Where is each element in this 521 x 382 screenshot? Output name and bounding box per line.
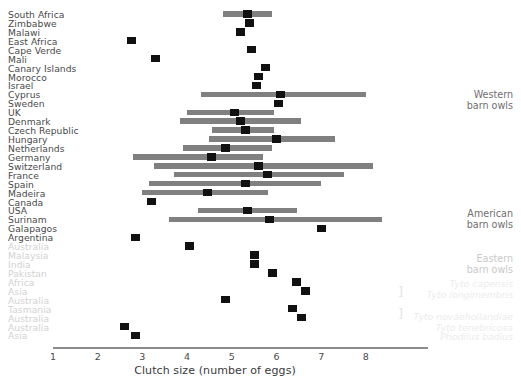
x-tick-6: 6 [267, 351, 287, 362]
point-marker [221, 296, 230, 303]
point-marker [272, 135, 281, 142]
point-marker [230, 109, 239, 116]
species-tyto-novaehollandiae: Tyto novaehollandiae [414, 311, 513, 322]
point-marker [288, 305, 297, 312]
group-western-barn-owls: Western barn owls [467, 89, 513, 112]
x-tick-4: 4 [177, 351, 197, 362]
group-eastern-line2: barn owls [467, 264, 513, 275]
point-marker [127, 37, 136, 44]
point-marker [203, 189, 212, 196]
species-phodilus-badius: Phodilus badius [440, 331, 513, 342]
point-marker [274, 100, 283, 107]
point-marker [301, 287, 310, 294]
group-eastern-line1: Eastern [467, 253, 513, 264]
x-axis-title: Clutch size (number of eggs) [0, 364, 430, 377]
range-bar [169, 217, 381, 222]
range-bar [133, 154, 263, 159]
point-marker [261, 64, 270, 71]
x-axis-line [53, 347, 428, 349]
point-marker [268, 269, 277, 276]
group-american-barn-owls: American barn owls [467, 208, 513, 231]
point-marker [297, 314, 306, 321]
point-marker [252, 82, 261, 89]
point-marker [221, 144, 230, 151]
x-tick-5: 5 [222, 351, 242, 362]
point-marker [276, 91, 285, 98]
point-marker [185, 242, 194, 249]
point-marker [265, 216, 274, 223]
point-marker [241, 180, 250, 187]
species-tyto-longimembris: Tyto longimembris [427, 289, 513, 300]
point-marker [247, 46, 256, 53]
bracket-longimembris: ] [398, 285, 403, 298]
point-marker [236, 28, 245, 35]
point-marker [120, 323, 129, 330]
x-tick-2: 2 [88, 351, 108, 362]
point-marker [151, 55, 160, 62]
range-bar [174, 172, 344, 177]
point-marker [236, 117, 245, 124]
point-marker [243, 10, 252, 17]
point-marker [147, 198, 156, 205]
group-american-line1: American [467, 208, 513, 219]
x-tick-8: 8 [356, 351, 376, 362]
point-marker [254, 162, 263, 169]
point-marker [245, 19, 254, 26]
x-tick-7: 7 [311, 351, 331, 362]
point-marker [131, 234, 140, 241]
point-marker [241, 126, 250, 133]
group-eastern-barn-owls: Eastern barn owls [467, 253, 513, 276]
point-marker [250, 260, 259, 267]
point-marker [254, 73, 263, 80]
species-tyto-capensis: Tyto capensis [450, 278, 513, 289]
point-marker [292, 278, 301, 285]
point-marker [263, 171, 272, 178]
clutch-size-chart: South AfricaZimbabweMalawiEast AfricaCap… [0, 0, 521, 382]
point-marker [317, 225, 326, 232]
group-western-line1: Western [467, 89, 513, 100]
bracket-novaehollandiae: ] [398, 307, 403, 320]
point-marker [250, 251, 259, 258]
range-bar [149, 181, 321, 186]
group-american-line2: barn owls [467, 219, 513, 230]
x-tick-1: 1 [43, 351, 63, 362]
point-marker [243, 207, 252, 214]
group-western-line2: barn owls [467, 100, 513, 111]
x-tick-3: 3 [132, 351, 152, 362]
point-marker [207, 153, 216, 160]
point-marker [131, 332, 140, 339]
